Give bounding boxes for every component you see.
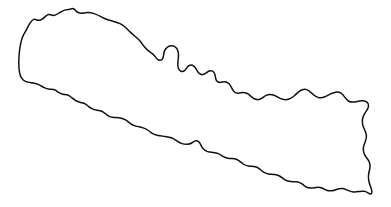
map-figure xyxy=(0,0,391,207)
map-canvas xyxy=(0,0,391,207)
